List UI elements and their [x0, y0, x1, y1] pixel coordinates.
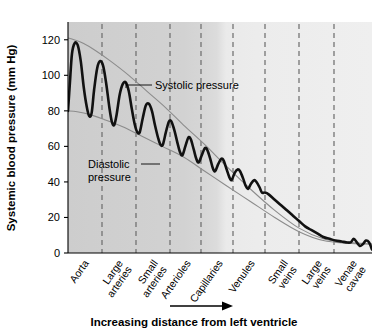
y-tick-label-20: 20 [48, 211, 60, 223]
systolic-pressure-label: Systolic pressure [155, 79, 239, 91]
y-tick-label-0: 0 [54, 247, 60, 259]
x-axis-category-labels: AortaLargearteriesSmallarteriesArteriole… [67, 257, 368, 304]
x-category-aorta: Aorta [67, 257, 91, 285]
y-axis-tick-labels: 020406080100120 [42, 34, 60, 259]
y-tick-label-120: 120 [42, 34, 60, 46]
plot-background [68, 22, 372, 253]
arrow-head [222, 302, 233, 311]
diastolic-pressure-label-line1: Diastolic [88, 158, 130, 170]
y-tick-label-40: 40 [48, 176, 60, 188]
x-category-large-arteries: Largearteries [95, 257, 134, 299]
x-category-small-veins: Smallveins [265, 257, 299, 292]
x-category-venae-cavae: Venaecavae [332, 257, 368, 295]
x-category-line: Aorta [67, 257, 91, 285]
y-tick-label-80: 80 [48, 105, 60, 117]
y-tick-label-60: 60 [48, 140, 60, 152]
y-axis-title: Systemic blood pressure (mm Hg) [5, 45, 17, 232]
y-tick-label-100: 100 [42, 69, 60, 81]
x-category-venules: Venules [226, 257, 257, 294]
x-category-large-veins: Largeveins [299, 257, 333, 292]
y-axis-ticks [64, 40, 68, 253]
blood-pressure-chart: 020406080100120 Systemic blood pressure … [0, 0, 388, 330]
x-category-line: Venules [226, 257, 257, 294]
x-axis-caption: Increasing distance from left ventricle [90, 316, 297, 328]
diastolic-pressure-label-line2: pressure [88, 171, 131, 183]
direction-arrow [170, 302, 233, 311]
